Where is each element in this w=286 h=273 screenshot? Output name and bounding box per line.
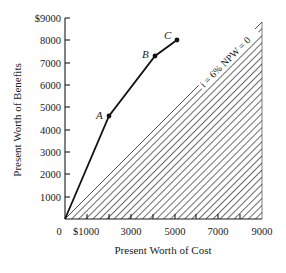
point-c-marker	[175, 38, 180, 43]
x-tick-3000: 3000	[121, 226, 142, 237]
x-tick-labels: 0 $1000 3000 5000 7000 9000	[56, 226, 272, 237]
x-tick-7000: 7000	[208, 226, 229, 237]
y-tick-5000: 5000	[40, 102, 61, 113]
x-tick-0: 0	[56, 226, 61, 237]
x-tick-5000: 5000	[165, 226, 186, 237]
point-a-marker	[107, 114, 112, 119]
y-tick-4000: 4000	[40, 125, 61, 136]
y-axis	[65, 18, 70, 219]
point-b-marker	[153, 54, 158, 59]
y-tick-2000: 2000	[40, 169, 61, 180]
point-c-label: C	[164, 29, 172, 41]
npw-chart: $9000 8000 7000 6000 5000 4000 3000 2000…	[0, 0, 286, 273]
point-a-label: A	[95, 109, 103, 121]
y-tick-8000: 8000	[40, 35, 61, 46]
y-tick-7000: 7000	[40, 58, 61, 69]
point-b-label: B	[142, 48, 149, 60]
y-axis-title: Present Worth of Benefits	[11, 63, 23, 176]
x-tick-1000: $1000	[73, 226, 99, 237]
y-tick-9000: $9000	[35, 13, 61, 24]
y-tick-3000: 3000	[40, 147, 61, 158]
y-tick-6000: 6000	[40, 80, 61, 91]
x-axis-title: Present Worth of Cost	[115, 244, 212, 256]
x-tick-9000: 9000	[252, 226, 273, 237]
y-tick-1000: 1000	[40, 192, 61, 203]
y-tick-labels: $9000 8000 7000 6000 5000 4000 3000 2000…	[35, 13, 61, 203]
